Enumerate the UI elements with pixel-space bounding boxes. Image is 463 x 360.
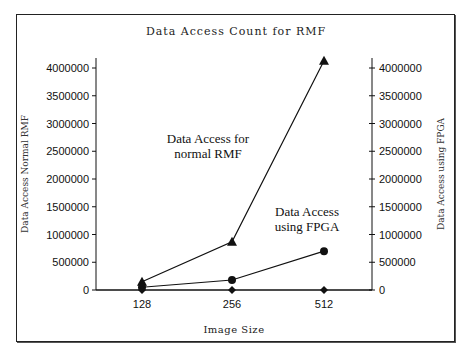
right-y-tick-label: 2500000 bbox=[379, 145, 422, 157]
left-y-axis-label: Data Access Normal RMF bbox=[20, 115, 30, 233]
triangle-marker bbox=[227, 237, 237, 246]
annotation-fpga-line2: using FPGA bbox=[275, 219, 340, 234]
annotation-normal-rmf-line2: normal RMF bbox=[174, 146, 242, 161]
circle-marker bbox=[320, 247, 328, 255]
left-y-tick-label: 1000000 bbox=[46, 229, 89, 241]
annotation-normal-rmf-line1: Data Access for bbox=[167, 131, 250, 146]
left-y-tick-label: 500000 bbox=[52, 256, 89, 268]
left-y-tick-label: 3000000 bbox=[46, 118, 89, 130]
x-tick-label: 128 bbox=[133, 298, 151, 310]
right-y-tick-label: 4000000 bbox=[379, 62, 422, 74]
diamond-marker bbox=[228, 286, 236, 294]
left-y-tick-label: 3500000 bbox=[46, 90, 89, 102]
right-y-tick-label: 500000 bbox=[379, 256, 416, 268]
left-y-tick-label: 0 bbox=[83, 284, 89, 296]
left-y-tick-label: 1500000 bbox=[46, 201, 89, 213]
left-y-ticks: 4000000350000030000002500000200000015000… bbox=[46, 62, 96, 296]
right-y-tick-label: 3000000 bbox=[379, 118, 422, 130]
right-y-ticks: 4000000350000030000002500000200000015000… bbox=[369, 62, 422, 296]
x-tick-label: 512 bbox=[315, 298, 333, 310]
line-chart: Data Access Count for RMF 40000003500000… bbox=[0, 0, 463, 360]
annotation-fpga-line1: Data Access bbox=[275, 204, 339, 219]
x-axis-label: Image Size bbox=[203, 324, 264, 335]
left-y-tick-label: 2000000 bbox=[46, 173, 89, 185]
left-y-tick-label: 2500000 bbox=[46, 145, 89, 157]
right-y-tick-label: 2000000 bbox=[379, 173, 422, 185]
right-y-tick-label: 3500000 bbox=[379, 90, 422, 102]
right-y-tick-label: 1500000 bbox=[379, 201, 422, 213]
series-line bbox=[142, 61, 324, 282]
left-y-tick-label: 4000000 bbox=[46, 62, 89, 74]
chart-title: Data Access Count for RMF bbox=[146, 25, 326, 38]
circle-marker bbox=[228, 276, 236, 284]
x-tick-label: 256 bbox=[223, 298, 241, 310]
right-y-axis-label: Data Access using FPGA bbox=[436, 117, 446, 230]
diamond-marker bbox=[320, 286, 328, 294]
series-group bbox=[96, 56, 372, 294]
right-y-tick-label: 1000000 bbox=[379, 229, 422, 241]
right-y-tick-label: 0 bbox=[379, 284, 385, 296]
triangle-marker bbox=[319, 56, 329, 65]
x-ticks: 128256512 bbox=[133, 298, 333, 310]
